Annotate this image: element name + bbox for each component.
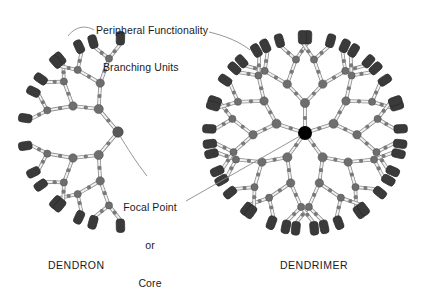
bond-midpoint-dot: [246, 72, 250, 76]
peripheral-functionality-unit: [33, 72, 49, 87]
bond-midpoint-dot: [253, 66, 257, 70]
bond-midpoint-dot: [383, 146, 387, 150]
branch-node: [344, 158, 352, 166]
bond-midpoint-dot: [224, 109, 228, 113]
branch-node: [60, 179, 67, 186]
terminal-group: [73, 209, 86, 225]
terminal-group: [309, 221, 319, 235]
bond-midpoint-dot: [294, 91, 298, 95]
terminal-group: [202, 124, 216, 133]
bond-midpoint-dot: [249, 99, 253, 103]
terminal-group: [18, 141, 33, 151]
peripheral-functionality-unit: [18, 113, 33, 123]
bond-midpoint-dot: [66, 92, 70, 96]
bond-midpoint-dot: [58, 106, 62, 110]
bond-midpoint-dot: [106, 118, 110, 122]
branch-node: [283, 80, 291, 88]
bond-midpoint-dot: [259, 86, 263, 90]
bond-midpoint-dot: [226, 102, 230, 106]
bond-midpoint-dot: [37, 147, 41, 151]
bond-midpoint-dot: [78, 201, 82, 205]
bond-midpoint-dot: [319, 51, 323, 55]
bond-midpoint-dot: [332, 75, 336, 79]
bond-midpoint-dot: [319, 168, 323, 172]
bond-midpoint-dot: [222, 122, 226, 126]
peripheral-functionality-unit: [25, 166, 41, 179]
branch-node: [249, 131, 257, 139]
bond-midpoint-dot: [380, 102, 384, 106]
peripheral-functionality-unit: [265, 215, 278, 231]
bond-midpoint-dot: [61, 70, 65, 74]
terminal-group: [25, 166, 41, 179]
branch-node: [342, 97, 350, 105]
peripheral-functionality-unit: [394, 124, 408, 133]
bond-midpoint-dot: [374, 90, 378, 94]
branch-node: [44, 150, 51, 157]
peripheral-functionality-unit: [25, 85, 41, 98]
bond-midpoint-dot: [87, 185, 91, 189]
bond-midpoint-dot: [316, 70, 320, 74]
leader-focal-dendron: [120, 136, 147, 176]
branch-node: [329, 119, 338, 128]
branch-node: [283, 153, 292, 162]
bond-midpoint-dot: [289, 70, 293, 74]
branch-node: [261, 67, 268, 74]
bond-midpoint-dot: [84, 154, 88, 158]
branch-node: [352, 184, 359, 191]
leader-peripheral-right: [209, 32, 250, 50]
branch-node: [255, 72, 262, 79]
terminal-group: [25, 85, 41, 98]
terminal-group: [291, 221, 301, 235]
branch-node: [230, 149, 237, 156]
leader-peripheral-left: [68, 27, 94, 36]
peripheral-functionality-unit: [298, 30, 307, 44]
branch-node: [315, 179, 323, 187]
branch-node: [94, 150, 103, 159]
bond-midpoint-dot: [41, 160, 45, 164]
bond-midpoint-dot: [328, 188, 332, 192]
bond-midpoint-dot: [84, 105, 88, 109]
bond-midpoint-dot: [338, 110, 342, 114]
terminal-group: [33, 72, 49, 87]
peripheral-functionality-unit: [291, 221, 301, 235]
bond-midpoint-dot: [66, 168, 70, 172]
branch-node: [229, 115, 236, 122]
branch-node: [234, 98, 241, 105]
bond-midpoint-dot: [41, 100, 45, 104]
branch-node: [44, 107, 51, 114]
peripheral-functionality-unit: [202, 124, 216, 133]
bond-midpoint-dot: [382, 109, 386, 113]
terminal-group: [394, 124, 408, 133]
bond-midpoint-dot: [350, 172, 354, 176]
bond-midpoint-dot: [242, 186, 246, 190]
bond-midpoint-dot: [342, 59, 346, 63]
branch-node: [319, 80, 327, 88]
branch-node: [69, 154, 77, 162]
bond-midpoint-dot: [87, 74, 91, 78]
branch-node: [286, 179, 294, 187]
branch-node: [96, 79, 104, 87]
bond-midpoint-dot: [380, 158, 384, 162]
branch-node: [348, 72, 355, 79]
bond-midpoint-dot: [224, 154, 228, 158]
bond-midpoint-dot: [359, 159, 363, 163]
branch-node: [300, 98, 309, 107]
label-focal-point-or-core: Focal Point or Core: [112, 176, 188, 291]
peripheral-functionality-unit: [391, 148, 406, 159]
branch-node: [60, 78, 67, 85]
peripheral-functionality-unit: [33, 178, 49, 193]
bond-midpoint-dot: [365, 125, 369, 129]
bond-midpoint-dot: [61, 190, 65, 194]
bond-midpoint-dot: [252, 195, 256, 199]
bond-midpoint-dot: [102, 191, 106, 195]
bond-midpoint-dot: [241, 125, 245, 129]
bond-midpoint-dot: [113, 49, 117, 53]
bond-midpoint-dot: [365, 141, 369, 145]
bond-midpoint-dot: [247, 159, 251, 163]
bond-midpoint-dot: [301, 213, 305, 217]
peripheral-functionality-unit: [325, 33, 337, 48]
bond-midpoint-dot: [333, 158, 337, 162]
bond-midpoint-dot: [37, 113, 41, 117]
